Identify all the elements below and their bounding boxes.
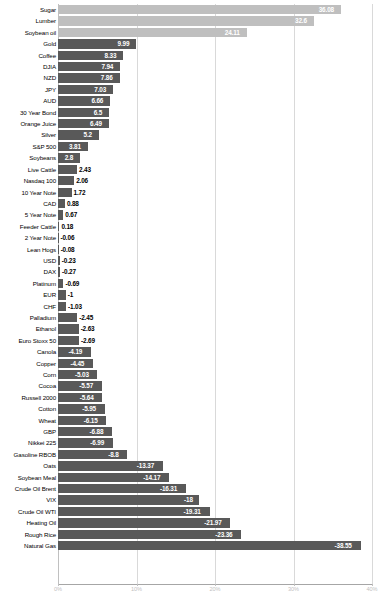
bar-value-label: -4.19 <box>68 347 82 356</box>
bar-row: Feeder Cattle0.18 <box>0 221 378 232</box>
bar-container: -5.57 <box>58 381 372 390</box>
bar-value-label: 32.6 <box>295 16 307 25</box>
category-label: Nikkei 225 <box>0 437 56 448</box>
bar[interactable] <box>58 416 106 425</box>
bar[interactable] <box>58 302 66 311</box>
category-label: Soybeans <box>0 152 56 163</box>
bar-row: 10 Year Note1.72 <box>0 187 378 198</box>
bar-row: Soybean Meal-14.17 <box>0 472 378 483</box>
bar-container: -13.37 <box>58 461 372 470</box>
bar[interactable] <box>58 336 79 345</box>
bar-row: Sugar36.08 <box>0 4 378 15</box>
bar-row: Natural Gas-38.55 <box>0 540 378 551</box>
x-tick-label: 10% <box>131 586 142 592</box>
bar[interactable] <box>58 495 199 504</box>
bar[interactable] <box>58 267 60 276</box>
bar[interactable] <box>58 28 247 37</box>
bar-container: 7.86 <box>58 73 372 82</box>
bar-row: Platinum-0.69 <box>0 278 378 289</box>
bar-container: 6.49 <box>58 119 372 128</box>
bar-container: -2.45 <box>58 313 372 322</box>
bar-row: Live Cattle2.43 <box>0 164 378 175</box>
bar-container: 0.18 <box>58 222 372 231</box>
bar-value-label: -0.08 <box>61 245 75 254</box>
category-label: Crude Oil WTI <box>0 506 56 517</box>
bar[interactable] <box>58 233 59 242</box>
category-label: Cocoa <box>0 380 56 391</box>
category-label: Silver <box>0 129 56 140</box>
bar-container: -1.03 <box>58 302 372 311</box>
bar-value-label: 2.8 <box>65 153 73 162</box>
x-tick-label: 30% <box>288 586 299 592</box>
bar[interactable] <box>58 188 72 197</box>
bar-row: USD-0.23 <box>0 255 378 266</box>
bar-container: -18 <box>58 495 372 504</box>
bar-container: -4.19 <box>58 347 372 356</box>
category-label: Platinum <box>0 278 56 289</box>
bar-container: -14.17 <box>58 473 372 482</box>
bar[interactable] <box>58 256 60 265</box>
category-label: GBP <box>0 426 56 437</box>
category-label: Lumber <box>0 15 56 26</box>
plot-area: Sugar36.08Lumber32.6Soybean oil24.11Gold… <box>0 4 378 584</box>
category-label: Cotton <box>0 403 56 414</box>
bar-value-label: -2.69 <box>81 336 95 345</box>
bar-value-label: 7.03 <box>94 85 106 94</box>
bar[interactable] <box>58 245 59 254</box>
bar-row: Corn-5.03 <box>0 369 378 380</box>
bar-value-label: -13.37 <box>137 461 154 470</box>
bar[interactable] <box>58 165 77 174</box>
bar[interactable] <box>58 176 74 185</box>
bar-row: Copper-4.45 <box>0 358 378 369</box>
bar-value-label: 2.06 <box>76 176 88 185</box>
bar[interactable] <box>58 324 79 333</box>
bar-container: 9.99 <box>58 39 372 48</box>
bar[interactable] <box>58 16 314 25</box>
bar[interactable] <box>58 541 361 550</box>
bar-row: EUR-1 <box>0 289 378 300</box>
bar[interactable] <box>58 210 63 219</box>
bar-container: -2.63 <box>58 324 372 333</box>
bar-value-label: -23.36 <box>215 530 232 539</box>
bar-row: Lumber32.6 <box>0 15 378 26</box>
category-label: CAD <box>0 198 56 209</box>
bar-row: Gasoline RBOB-8.8 <box>0 449 378 460</box>
category-label: DAX <box>0 266 56 277</box>
bar[interactable] <box>58 199 65 208</box>
bar-container: -21.97 <box>58 518 372 527</box>
category-label: Crude Oil Brent <box>0 483 56 494</box>
bar-value-label: -5.03 <box>75 370 89 379</box>
bar-container: -6.88 <box>58 427 372 436</box>
bar-container: 32.6 <box>58 16 372 25</box>
bar-row: Wheat-6.15 <box>0 415 378 426</box>
bar[interactable] <box>58 313 77 322</box>
category-label: Natural Gas <box>0 540 56 551</box>
bar-value-label: -2.45 <box>79 313 93 322</box>
bar-row: Crude Oil Brent-16.31 <box>0 483 378 494</box>
bar-container: 6.66 <box>58 96 372 105</box>
bar-row: S&P 5003.81 <box>0 141 378 152</box>
bar-value-label: 24.11 <box>225 28 240 37</box>
bar[interactable] <box>58 438 113 447</box>
bar-container: 7.94 <box>58 62 372 71</box>
category-label: Orange Juice <box>0 118 56 129</box>
bar-container: -1 <box>58 290 372 299</box>
bar-container: -38.55 <box>58 541 372 550</box>
bar[interactable] <box>58 290 66 299</box>
bar-row: 5 Year Note0.67 <box>0 209 378 220</box>
bar-container: -6.99 <box>58 438 372 447</box>
x-axis-ticks: 0%10%20%30%40% <box>0 586 378 600</box>
bar[interactable] <box>58 222 59 231</box>
bar-row: Gold9.99 <box>0 38 378 49</box>
bar[interactable] <box>58 130 99 139</box>
category-label: Ethanol <box>0 323 56 334</box>
category-label: VIX <box>0 494 56 505</box>
bar[interactable] <box>58 5 341 14</box>
bar-container: 2.43 <box>58 165 372 174</box>
bar[interactable] <box>58 427 112 436</box>
bar[interactable] <box>58 530 241 539</box>
category-label: Coffee <box>0 50 56 61</box>
bar[interactable] <box>58 279 63 288</box>
category-label: Corn <box>0 369 56 380</box>
bar-value-label: -1 <box>68 290 73 299</box>
